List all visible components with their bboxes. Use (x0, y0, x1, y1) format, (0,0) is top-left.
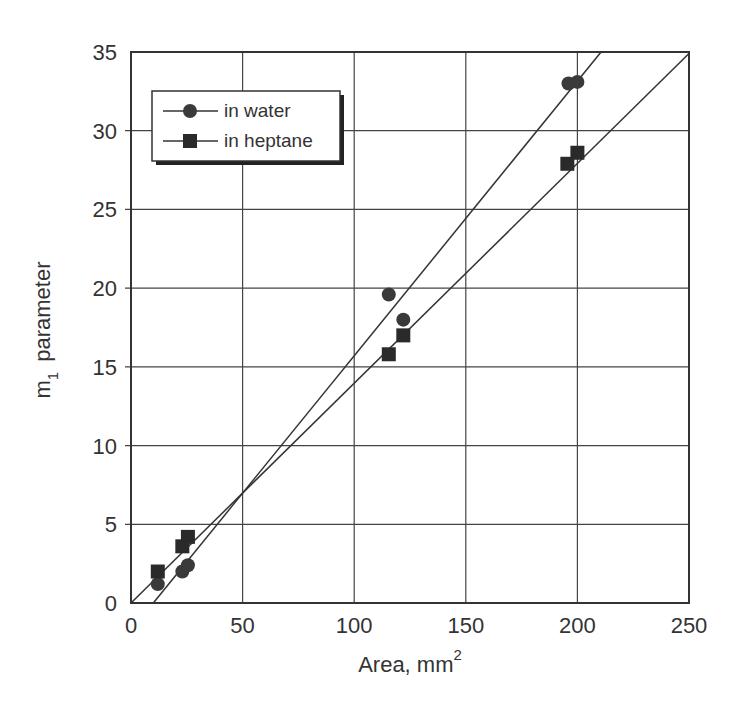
data-point-circle (181, 558, 195, 572)
y-tick-label: 30 (93, 119, 117, 144)
data-point-circle (570, 75, 584, 89)
data-point-square (396, 328, 410, 342)
x-tick-label: 250 (671, 613, 708, 638)
legend-label-heptane: in heptane (224, 130, 313, 151)
y-tick-label: 10 (93, 434, 117, 459)
y-tick-label: 0 (105, 591, 117, 616)
legend-label-water: in water (224, 100, 291, 121)
x-tick-label: 50 (230, 613, 254, 638)
legend: in water in heptane (152, 91, 344, 165)
data-point-square (570, 146, 584, 160)
data-point-square (151, 565, 165, 579)
y-tick-label: 15 (93, 355, 117, 380)
y-tick-label: 35 (93, 40, 117, 65)
y-axis-label: m1parameter (30, 262, 61, 399)
y-tick-label: 25 (93, 197, 117, 222)
y-axis-ticks: 05101520253035 (93, 40, 117, 616)
x-axis-ticks: 050100150200250 (125, 613, 707, 638)
data-point-circle (151, 577, 165, 591)
x-axis-label: Area, mm2 (358, 646, 462, 677)
x-tick-label: 100 (336, 613, 373, 638)
data-point-circle (396, 313, 410, 327)
square-marker-icon (183, 134, 197, 148)
y-tick-label: 20 (93, 276, 117, 301)
circle-marker-icon (183, 104, 197, 118)
data-point-circle (382, 287, 396, 301)
x-tick-label: 0 (125, 613, 137, 638)
chart-canvas: 050100150200250 05101520253035 Area, mm2… (0, 0, 746, 714)
x-tick-label: 150 (447, 613, 484, 638)
x-tick-label: 200 (559, 613, 596, 638)
data-point-square (181, 530, 195, 544)
data-point-square (382, 347, 396, 361)
svg-text:m1parameter: m1parameter (30, 262, 61, 399)
y-tick-label: 5 (105, 512, 117, 537)
